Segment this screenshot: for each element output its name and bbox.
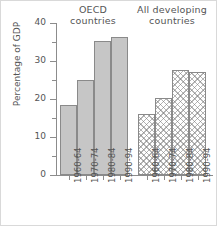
x-tick bbox=[69, 176, 70, 180]
y-axis-title: Percentage of GDP bbox=[12, 4, 22, 124]
x-label-developing-1990-94: 1990-94 bbox=[202, 147, 212, 183]
x-tick bbox=[181, 176, 182, 180]
y-tick-label-40: 40 bbox=[22, 17, 46, 27]
x-label-oecd-1960-64: 1960-64 bbox=[73, 147, 83, 183]
x-label-developing-1970-74: 1970-74 bbox=[168, 147, 178, 183]
group-title-developing-line1: All developing bbox=[129, 4, 215, 15]
x-label-oecd-1970-74: 1970-74 bbox=[90, 147, 100, 183]
x-label-developing-1980-84: 1980-84 bbox=[185, 147, 195, 183]
x-tick bbox=[198, 176, 199, 180]
x-label-developing-1960-64: 1960-64 bbox=[151, 147, 161, 183]
x-label-oecd-1980-84: 1980-84 bbox=[107, 147, 117, 183]
y-tick-label-30: 30 bbox=[22, 55, 46, 65]
x-label-oecd-1990-94: 1990-94 bbox=[124, 147, 134, 183]
x-tick bbox=[164, 176, 165, 180]
y-tick-label-10: 10 bbox=[22, 131, 46, 141]
bar-chart-figure: OECD countries All developing countries … bbox=[0, 0, 217, 226]
y-tick-label-20: 20 bbox=[22, 93, 46, 103]
x-tick bbox=[86, 176, 87, 180]
x-tick bbox=[120, 176, 121, 180]
y-tick-label-0: 0 bbox=[22, 169, 46, 179]
x-tick bbox=[147, 176, 148, 180]
x-tick bbox=[103, 176, 104, 180]
group-title-oecd-line1: OECD bbox=[57, 4, 129, 15]
